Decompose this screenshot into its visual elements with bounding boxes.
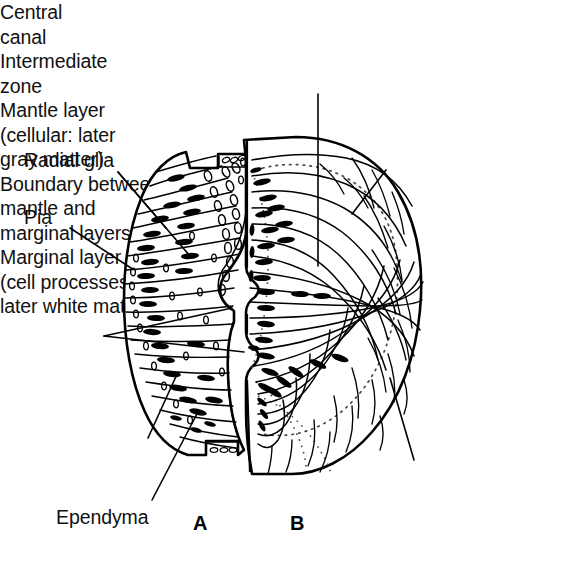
label-radial-glia: Radial glia [24, 148, 114, 173]
neural-tube-figure [0, 0, 576, 563]
panel-a-drawing [124, 152, 251, 455]
panel-b-drawing [244, 137, 423, 474]
panel-a-letter: A [193, 512, 207, 535]
panel-b-letter: B [290, 512, 304, 535]
leader-pia [70, 228, 131, 268]
label-pia: Pia [24, 205, 52, 230]
label-ependyma: Ependyma [56, 505, 148, 530]
leader-marginal-layer [390, 378, 414, 460]
